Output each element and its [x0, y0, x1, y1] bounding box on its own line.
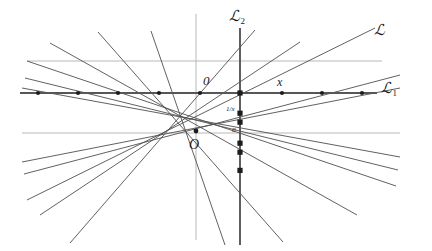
- point-on-L1: [36, 91, 40, 95]
- faint-guide-lines: [22, 14, 400, 240]
- pencil-line-2: [25, 78, 398, 170]
- point-on-L2-intersection: [237, 90, 242, 95]
- point-on-L1-x: [280, 91, 284, 95]
- label-origin-O: O: [189, 138, 199, 152]
- label-line-L1-sub: 1: [393, 88, 398, 98]
- pencil-line-1: [22, 88, 400, 157]
- point-on-L2-zero: [237, 141, 242, 146]
- pencil-line-4: [50, 43, 357, 215]
- point-on-L2: [237, 150, 242, 155]
- figure-svg: [0, 0, 432, 251]
- label-line-L: ℒ: [374, 23, 385, 38]
- label-one-over-x: 1/x: [226, 106, 235, 113]
- label-zero-on-L1: 0: [203, 74, 210, 87]
- point-on-L1: [320, 91, 324, 95]
- label-line-L2-name: ℒ: [229, 8, 240, 24]
- figure-canvas: ℒ2 ℒ ℒ1 0 x O 1/x 0: [0, 0, 432, 251]
- point-on-L1-zero: [198, 91, 202, 95]
- point-on-L1: [360, 91, 364, 95]
- label-line-L2-sub: 2: [241, 16, 246, 26]
- pencil-line-9: [27, 28, 375, 200]
- pencil-line-8: [40, 42, 300, 215]
- point-on-L1: [76, 91, 80, 95]
- label-zero-on-L2: 0: [232, 127, 236, 134]
- label-x-on-L1: x: [277, 76, 282, 88]
- origin-point: [194, 129, 199, 134]
- point-on-L1: [116, 91, 120, 95]
- label-line-L1: ℒ1: [381, 81, 397, 98]
- point-on-L2: [237, 120, 242, 125]
- pencil-line-7: [70, 30, 255, 243]
- label-line-L2: ℒ2: [229, 9, 245, 26]
- point-on-L1: [157, 91, 161, 95]
- label-line-L1-name: ℒ: [381, 80, 392, 96]
- pencil-line-11: [22, 88, 400, 162]
- point-on-L2: [237, 168, 242, 173]
- point-on-L2-one-over-x: [237, 111, 242, 116]
